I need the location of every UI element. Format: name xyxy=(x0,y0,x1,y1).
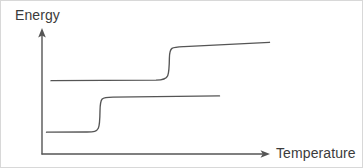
plot-canvas xyxy=(1,1,363,168)
y-axis-label: Energy xyxy=(15,8,60,22)
upper-step-curve xyxy=(51,42,270,80)
energy-temperature-figure: Energy Temperature xyxy=(0,0,363,168)
x-axis-label: Temperature xyxy=(276,146,356,160)
lower-step-curve xyxy=(47,96,220,132)
